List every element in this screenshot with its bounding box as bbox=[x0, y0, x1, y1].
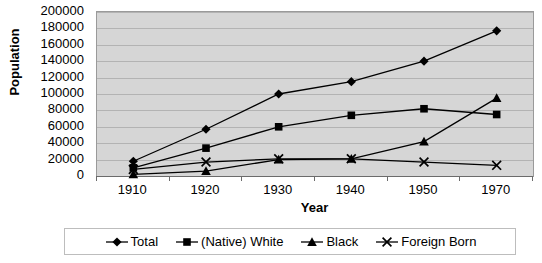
legend-item-black[interactable]: Black bbox=[299, 234, 358, 249]
y-axis-tick-label: 180000 bbox=[41, 20, 84, 34]
data-point bbox=[275, 123, 283, 131]
data-point bbox=[419, 137, 429, 146]
legend-label: Total bbox=[131, 234, 158, 249]
series-foreign-born bbox=[129, 154, 501, 173]
x-axis-tick-mark bbox=[459, 176, 460, 181]
legend-marker-cross-icon bbox=[374, 235, 400, 249]
y-axis-tick-label: 80000 bbox=[48, 102, 84, 116]
data-point bbox=[348, 112, 356, 120]
x-axis-title: Year bbox=[96, 200, 533, 215]
series-black bbox=[129, 93, 502, 178]
x-axis-tick-label: 1950 bbox=[393, 182, 453, 197]
chart-container: Population 20000018000016000014000012000… bbox=[0, 0, 542, 263]
y-axis-tick-label: 60000 bbox=[48, 119, 84, 133]
y-axis-tick-labels: 2000001800001600001400001200001000008000… bbox=[16, 4, 88, 180]
legend-marker-diamond-icon bbox=[104, 235, 130, 249]
legend-item-foreign-born[interactable]: Foreign Born bbox=[374, 234, 476, 249]
x-axis-tick-mark bbox=[532, 176, 533, 181]
x-axis-tick-label: 1970 bbox=[466, 182, 526, 197]
legend-label: Black bbox=[326, 234, 358, 249]
data-point bbox=[201, 125, 210, 134]
data-point bbox=[493, 111, 501, 119]
plot-area bbox=[96, 11, 534, 177]
y-axis-tick-label: 20000 bbox=[48, 152, 84, 166]
x-axis-tick-mark bbox=[169, 176, 170, 181]
legend-item-total[interactable]: Total bbox=[104, 234, 158, 249]
data-point bbox=[274, 89, 283, 98]
x-axis-tick-mark bbox=[387, 176, 388, 181]
x-axis-tick-labels: 191019201930194019501970 bbox=[96, 182, 533, 200]
data-point bbox=[202, 144, 210, 152]
x-axis-tick-mark bbox=[96, 176, 97, 181]
data-point bbox=[492, 26, 501, 35]
data-point bbox=[347, 77, 356, 86]
y-axis-tick-label: 120000 bbox=[41, 70, 84, 84]
legend-item-native-white[interactable]: (Native) White bbox=[174, 234, 283, 249]
legend-label: Foreign Born bbox=[401, 234, 476, 249]
y-axis-tick-label: 0 bbox=[77, 168, 84, 182]
x-axis-tick-label: 1920 bbox=[175, 182, 235, 197]
legend-marker-triangle-icon bbox=[299, 235, 325, 249]
y-axis-tick-label: 100000 bbox=[41, 86, 84, 100]
data-point bbox=[420, 105, 428, 113]
x-axis-tick-label: 1940 bbox=[320, 182, 380, 197]
x-axis-tick-mark bbox=[314, 176, 315, 181]
chart-legend: Total(Native) WhiteBlackForeign Born bbox=[64, 228, 516, 255]
series-line bbox=[133, 31, 496, 161]
x-axis-tick-label: 1930 bbox=[248, 182, 308, 197]
series-layer bbox=[97, 12, 533, 176]
y-axis-tick-label: 140000 bbox=[41, 53, 84, 67]
x-axis-tick-mark bbox=[241, 176, 242, 181]
data-point bbox=[492, 93, 502, 102]
data-point bbox=[419, 57, 428, 66]
y-axis-tick-label: 40000 bbox=[48, 135, 84, 149]
series-total bbox=[129, 26, 502, 166]
y-axis-tick-label: 200000 bbox=[41, 4, 84, 18]
legend-label: (Native) White bbox=[201, 234, 283, 249]
y-axis-tick-label: 160000 bbox=[41, 37, 84, 51]
series-line bbox=[133, 159, 496, 170]
legend-marker-square-icon bbox=[174, 235, 200, 249]
x-axis-tick-label: 1910 bbox=[102, 182, 162, 197]
